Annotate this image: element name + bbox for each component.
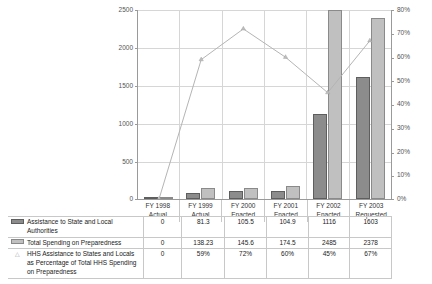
bar-assistance-fy2001 [271, 191, 285, 199]
cell-percentage-fy2000: 72% [225, 249, 267, 278]
bar-columns [138, 10, 391, 199]
tick-right-50 [391, 81, 394, 82]
bar-group [223, 10, 264, 199]
y2-axis-tick-70: 70% [397, 30, 410, 37]
cell-assistance-fy2000: 105.5 [225, 217, 267, 238]
tick-right-80 [391, 10, 394, 11]
table-row: Assistance to State and Local Authoritie… [8, 217, 392, 238]
bar-group [180, 10, 221, 199]
cell-assistance-fy1999: 81.3 [182, 217, 225, 238]
tick-right-60 [391, 58, 394, 59]
y2-axis-tick-50: 50% [397, 78, 410, 85]
legend-row-percentage: △HHS Assistance to States and Locals as … [8, 249, 143, 278]
bar-group [307, 10, 348, 199]
tick-right-40 [391, 105, 394, 106]
column-fy2003 [350, 10, 391, 199]
column-fy1999 [180, 10, 222, 199]
cell-total-fy1998: 0 [143, 237, 182, 249]
y2-axis-tick-10: 10% [397, 172, 410, 179]
cell-percentage-fy1999: 59% [182, 249, 225, 278]
cell-total-fy2003: 2378 [350, 237, 392, 249]
cell-assistance-fy2003: 1603 [350, 217, 392, 238]
table-row: △HHS Assistance to States and Locals as … [8, 249, 392, 278]
y-axis-tick-2500: 2500 [95, 7, 133, 14]
bar-group [138, 10, 179, 199]
bar-total-fy2000 [244, 188, 258, 199]
cell-assistance-fy2002: 1116 [308, 217, 349, 238]
bar-group [350, 10, 391, 199]
column-fy2001 [265, 10, 307, 199]
legend-triangle-marker-icon: △ [11, 250, 24, 258]
legend-row-total: Total Spending on Preparedness [8, 237, 143, 249]
y-axis-tick-0: 0 [95, 196, 133, 203]
bar-assistance-fy1999 [186, 193, 200, 199]
data-table: Assistance to State and Local Authoritie… [8, 216, 392, 279]
column-fy2002 [307, 10, 349, 199]
bar-total-fy1998 [159, 197, 173, 199]
y2-axis-tick-0: 0% [397, 196, 406, 203]
column-fy2000 [223, 10, 265, 199]
chart-plot-area: 2500 2000 1500 1000 500 0 80% 70% 60% 50… [0, 0, 432, 212]
y2-axis-tick-30: 30% [397, 125, 410, 132]
cell-assistance-fy2001: 104.9 [267, 217, 309, 238]
cell-assistance-fy1998: 0 [143, 217, 182, 238]
bar-assistance-fy2002 [313, 114, 327, 199]
bar-assistance-fy1998 [144, 197, 158, 199]
y-axis-tick-1500: 1500 [95, 83, 133, 90]
bar-assistance-fy2000 [229, 191, 243, 199]
cell-percentage-fy1998: 0 [143, 249, 182, 278]
y2-axis-tick-60: 60% [397, 54, 410, 61]
y2-axis-tick-80: 80% [397, 7, 410, 14]
cell-total-fy2002: 2485 [308, 237, 349, 249]
bar-assistance-fy2003 [356, 77, 370, 199]
plot-canvas [137, 10, 392, 200]
y2-axis-tick-20: 20% [397, 149, 410, 156]
tick-right-30 [391, 129, 394, 130]
column-fy1998 [138, 10, 180, 199]
chart-screenshot: 2500 2000 1500 1000 500 0 80% 70% 60% 50… [0, 0, 432, 284]
bar-total-fy2002 [328, 10, 342, 199]
cell-percentage-fy2002: 45% [308, 249, 349, 278]
y-axis-tick-1000: 1000 [95, 121, 133, 128]
bar-total-fy2003 [371, 18, 385, 199]
bar-total-fy1999 [201, 188, 215, 199]
legend-swatch-dark-icon [11, 219, 24, 224]
tick-right-20 [391, 153, 394, 154]
cell-total-fy1999: 138.23 [182, 237, 225, 249]
bar-group [265, 10, 306, 199]
tick-right-70 [391, 34, 394, 35]
legend-swatch-light-icon [11, 239, 24, 244]
legend-row-assistance: Assistance to State and Local Authoritie… [8, 217, 143, 238]
cell-percentage-fy2003: 67% [350, 249, 392, 278]
tick-right-10 [391, 176, 394, 177]
bar-total-fy2001 [286, 186, 300, 199]
cell-total-fy2000: 145.6 [225, 237, 267, 249]
y-axis-tick-500: 500 [95, 159, 133, 166]
cell-percentage-fy2001: 60% [267, 249, 309, 278]
table-row: Total Spending on Preparedness 0 138.23 … [8, 237, 392, 249]
y2-axis-tick-40: 40% [397, 101, 410, 108]
cell-total-fy2001: 174.5 [267, 237, 309, 249]
y-axis-tick-2000: 2000 [95, 45, 133, 52]
